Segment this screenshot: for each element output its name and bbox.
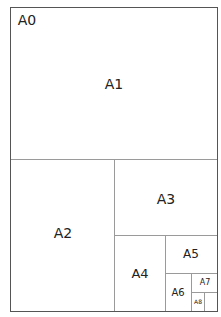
label-a5: A5: [183, 248, 199, 260]
label-a0: A0: [18, 13, 36, 27]
label-a3: A3: [157, 192, 175, 206]
label-a4: A4: [131, 267, 148, 280]
label-a8: A8: [194, 299, 202, 305]
divider-a8: [204, 293, 205, 311]
label-a7: A7: [200, 279, 211, 287]
label-a6: A6: [171, 288, 184, 298]
divider-a3-a4: [115, 235, 217, 236]
label-a2: A2: [54, 226, 72, 240]
label-a1: A1: [105, 77, 123, 91]
